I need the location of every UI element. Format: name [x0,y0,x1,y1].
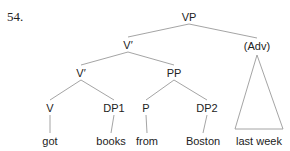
tree-node-dp2: DP2 [196,102,217,114]
tree-node-books: books [96,135,126,147]
tree-node-p: P [142,102,149,114]
tree-node-vbar1: V′ [123,39,132,51]
tree-node-lastweek: last week [236,135,282,147]
tree-node-adv: (Adv) [244,40,270,52]
tree-edge-vbar1-vbar2 [81,52,128,65]
tree-node-got: got [42,135,57,147]
tree-edge-pp-p [146,80,174,100]
tree-node-dp1: DP1 [103,102,124,114]
tree-labels: VPV′(Adv)V′PPVDP1PDP2gotbooksfromBostonl… [42,11,282,147]
tree-edge-pp-dp2 [174,80,207,100]
syntax-tree: VPV′(Adv)V′PPVDP1PDP2gotbooksfromBostonl… [0,0,290,151]
tree-edge-vp-vbar1 [128,24,189,37]
tree-edge-vbar1-pp [128,52,174,65]
tree-node-from: from [136,135,158,147]
tree-edge-vbar2-v [50,80,81,100]
tree-node-vbar2: V′ [76,67,85,79]
tree-edge-dp1-books [111,115,114,133]
tree-node-pp: PP [167,67,182,79]
tree-edge-vbar2-dp1 [81,80,114,100]
tree-node-vp: VP [182,11,197,23]
triangle-adv-lastweek [235,55,283,129]
tree-edge-p-from [146,115,147,133]
tree-edge-vp-adv [189,24,257,38]
tree-edge-dp2-boston [203,115,207,133]
tree-node-v: V [46,102,54,114]
tree-node-boston: Boston [186,135,220,147]
